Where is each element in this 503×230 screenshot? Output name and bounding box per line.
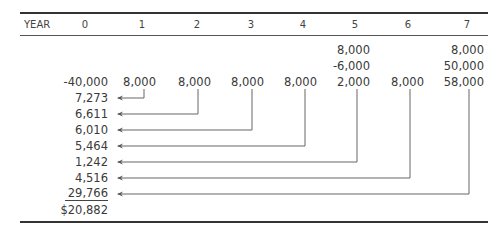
arrow-year-4 [118, 89, 305, 146]
discount-arrows [0, 0, 503, 230]
arrow-year-5 [118, 89, 357, 162]
arrow-year-3 [118, 89, 252, 130]
arrow-year-2 [118, 89, 198, 114]
arrow-year-6 [118, 89, 410, 178]
